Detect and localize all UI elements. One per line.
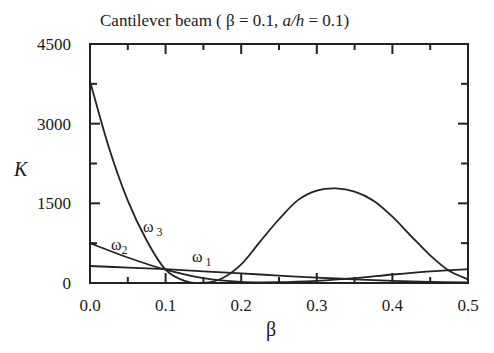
- y-tick-label: 1500: [37, 194, 71, 213]
- curve-label-omega1: ω1: [192, 248, 212, 269]
- y-axis-label: K: [13, 158, 29, 180]
- curve-label-omega3: ω3: [143, 218, 163, 239]
- plot-frame: [90, 44, 468, 283]
- chart-title-italic: a/h: [283, 11, 305, 30]
- x-tick-label: 0.2: [231, 296, 252, 315]
- chart-title-prefix: Cantilever beam ( β = 0.1,: [100, 11, 283, 30]
- y-tick-label: 4500: [37, 35, 71, 54]
- curves: [90, 81, 468, 283]
- axis-ticks: [90, 44, 468, 283]
- x-tick-label: 0.5: [457, 296, 478, 315]
- x-tick-label: 0.0: [79, 296, 100, 315]
- x-tick-label: 0.1: [155, 296, 176, 315]
- curve-omega2: [90, 243, 468, 282]
- chart-title-suffix: = 0.1): [304, 11, 349, 30]
- curve-omega3: [90, 81, 468, 283]
- y-tick-label: 3000: [37, 115, 71, 134]
- x-axis-label: β: [266, 318, 276, 341]
- x-tick-label: 0.3: [306, 296, 327, 315]
- y-tick-label: 0: [63, 274, 72, 293]
- chart: Cantilever beam ( β = 0.1, a/h = 0.1) 0.…: [0, 0, 494, 353]
- chart-title: Cantilever beam ( β = 0.1, a/h = 0.1): [100, 11, 349, 30]
- x-tick-label: 0.4: [382, 296, 404, 315]
